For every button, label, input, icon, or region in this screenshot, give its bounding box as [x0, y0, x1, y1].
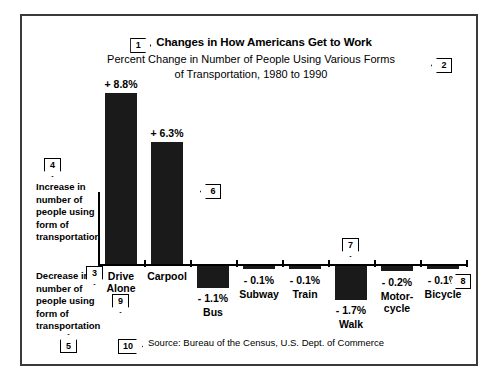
axis-tick	[328, 260, 330, 267]
bar-bus	[197, 266, 229, 288]
callout-7: 7	[342, 238, 359, 257]
callout-6: 6	[200, 184, 221, 199]
axis-tick	[236, 260, 238, 267]
decrease-line: form of	[36, 308, 69, 319]
bar-value-carpool: + 6.3%	[137, 127, 197, 139]
source-note: 10Source: Bureau of the Census, U.S. Dep…	[22, 336, 480, 351]
axis-tick	[466, 260, 468, 267]
axis-tick	[374, 260, 376, 267]
axis-tick	[420, 260, 422, 267]
callout-9: 9	[112, 294, 129, 313]
decrease-line: number of	[36, 283, 82, 294]
bar-label-line: Subway	[239, 288, 279, 300]
bar-label-line: Bicycle	[425, 288, 462, 300]
bar-label-line: cycle	[384, 302, 410, 314]
bar-label-line: Walk	[339, 318, 363, 330]
increase-annotation: Increase in number of people using form …	[36, 181, 100, 244]
bar-label-line: Alone	[106, 282, 135, 294]
bar-label-walk: Walk	[321, 318, 381, 330]
chart-screenshot: 1Changes in How Americans Get to Work Pe…	[0, 0, 498, 382]
bar-drive-alone	[105, 93, 137, 264]
source-text: Source: Bureau of the Census, U.S. Dept.…	[148, 337, 384, 348]
bar-label-line: Motor-	[381, 290, 414, 302]
bar-carpool	[151, 142, 183, 264]
bar-label-line: Train	[292, 288, 317, 300]
bar-value-drive-alone: + 8.8%	[91, 78, 151, 90]
bar-label-bicycle: Bicycle	[413, 288, 473, 300]
bar-label-line: Drive	[108, 270, 134, 282]
bar-value-train: - 0.1%	[275, 274, 335, 286]
axis-tick	[282, 260, 284, 267]
axis-tick	[144, 260, 146, 267]
chart-frame: 1Changes in How Americans Get to Work Pe…	[20, 14, 478, 366]
increase-line: people using	[36, 206, 95, 217]
bar-walk	[335, 266, 367, 300]
increase-line: transportation	[36, 231, 100, 242]
bar-bicycle	[427, 266, 459, 269]
bar-label-line: Bus	[203, 306, 223, 318]
bar-train	[289, 266, 321, 269]
axis-tick	[98, 260, 100, 267]
increase-line: Increase in	[36, 181, 86, 192]
bar-label-bus: Bus	[183, 306, 243, 318]
bar-label-carpool: Carpool	[137, 270, 197, 282]
decrease-line: people using	[36, 295, 95, 306]
bar-label-train: Train	[275, 288, 335, 300]
increase-line: form of	[36, 219, 69, 230]
bar-subway	[243, 266, 275, 269]
axis-tick	[190, 260, 192, 267]
decrease-line: Decrease in	[36, 270, 89, 281]
bar-label-line: Carpool	[147, 270, 187, 282]
increase-line: number of	[36, 194, 82, 205]
decrease-line: transportation	[36, 320, 100, 331]
bar-motorcycle	[381, 266, 413, 271]
